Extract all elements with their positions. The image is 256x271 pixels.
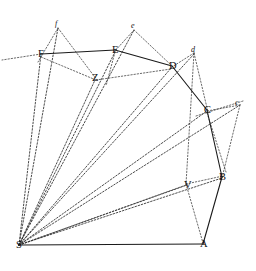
chord-V-A bbox=[186, 184, 203, 243]
vertex-label-d: d bbox=[191, 46, 195, 54]
vertex-label-B: B bbox=[219, 172, 226, 183]
edge-C-D bbox=[172, 66, 207, 110]
edge-D-E bbox=[115, 50, 172, 66]
ray-S-Z bbox=[19, 80, 95, 245]
chord-F-Z-right bbox=[41, 57, 96, 80]
chord-d-V bbox=[186, 53, 194, 184]
ray-S-f bbox=[19, 28, 58, 245]
chord-e-D bbox=[134, 30, 171, 65]
vertex-label-S: S bbox=[16, 240, 22, 251]
vertex-label-f: f bbox=[55, 20, 57, 28]
vertex-label-C: C bbox=[204, 105, 211, 116]
diagram-canvas bbox=[0, 0, 256, 271]
chord-Z-D bbox=[96, 69, 171, 80]
solid-polygon-edges bbox=[19, 50, 222, 245]
chord-E-down bbox=[106, 52, 115, 86]
edge-E-F bbox=[41, 50, 115, 54]
ray-S-F bbox=[19, 54, 41, 245]
chord-c-B bbox=[222, 105, 240, 178]
vertex-label-c: c bbox=[235, 99, 239, 107]
edge-A-B bbox=[203, 177, 222, 244]
chord-F-left bbox=[2, 54, 41, 60]
ray-S-c bbox=[19, 105, 240, 245]
edge-B-C bbox=[207, 110, 222, 177]
vertex-label-A: A bbox=[200, 239, 208, 250]
base-S-A bbox=[19, 244, 203, 245]
vertex-label-E: E bbox=[112, 45, 118, 56]
vertex-label-Z: Z bbox=[92, 73, 98, 84]
ray-S-D bbox=[19, 67, 172, 245]
geometry-figure: SABCDEFZVcdef bbox=[0, 0, 256, 271]
vertex-label-e: e bbox=[131, 22, 135, 30]
vertex-label-D: D bbox=[169, 61, 177, 72]
vertex-label-F: F bbox=[38, 49, 44, 60]
dashed-construction-lines bbox=[2, 28, 243, 245]
vertex-label-V: V bbox=[184, 180, 192, 191]
ray-S-C bbox=[19, 111, 207, 245]
